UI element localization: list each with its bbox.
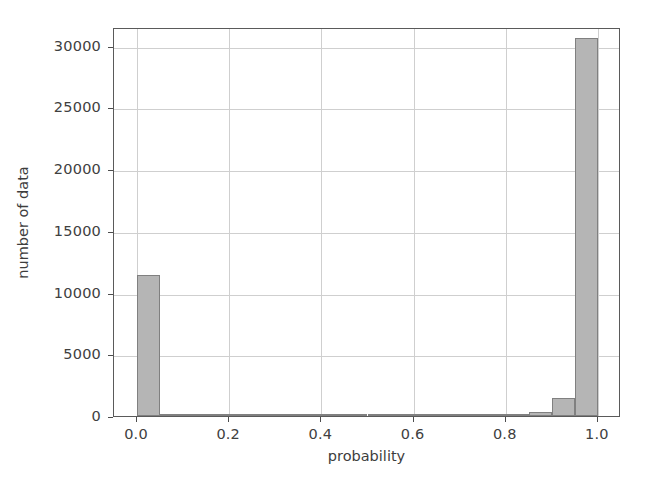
y-axis-label: number of data <box>10 28 36 417</box>
histogram-bar <box>183 414 206 416</box>
histogram-bar <box>321 414 344 416</box>
histogram-bar <box>483 414 506 416</box>
histogram-bar <box>137 275 160 416</box>
plot-area <box>113 28 620 417</box>
histogram-bar <box>414 414 437 416</box>
histogram-bar <box>206 414 229 416</box>
x-tick-label: 0.2 <box>188 426 268 442</box>
figure-canvas: 050001000015000200002500030000 0.00.20.4… <box>0 0 651 481</box>
x-tick-label: 0.6 <box>373 426 453 442</box>
histogram-bar <box>344 414 367 416</box>
x-axis-label: probability <box>113 448 620 464</box>
x-tick-mark <box>597 417 598 422</box>
histogram-bar <box>160 414 183 416</box>
x-tick-label: 0.8 <box>465 426 545 442</box>
x-tick-mark <box>320 417 321 422</box>
histogram-bar <box>229 414 252 416</box>
histogram-bar <box>529 412 552 416</box>
histogram-bar <box>252 414 275 416</box>
histogram-bars <box>114 29 619 416</box>
histogram-bar <box>506 414 529 416</box>
histogram-bar <box>460 414 483 416</box>
histogram-bar <box>575 38 598 416</box>
histogram-bar <box>275 414 298 416</box>
x-tick-label: 0.0 <box>96 426 176 442</box>
histogram-bar <box>437 414 460 416</box>
x-tick-mark <box>413 417 414 422</box>
x-tick-label: 0.4 <box>280 426 360 442</box>
x-tick-mark <box>228 417 229 422</box>
histogram-bar <box>368 414 391 416</box>
histogram-bar <box>552 398 575 416</box>
x-tick-label: 1.0 <box>557 426 637 442</box>
x-tick-mark <box>136 417 137 422</box>
histogram-bar <box>298 414 321 416</box>
x-tick-mark <box>505 417 506 422</box>
y-tick-mark <box>108 417 113 418</box>
histogram-bar <box>391 414 414 416</box>
